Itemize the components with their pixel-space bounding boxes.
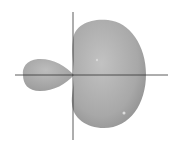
orbital-svg	[0, 0, 176, 148]
orbital-diagram	[0, 0, 176, 148]
large-lobe	[72, 20, 146, 128]
highlight-dot	[96, 59, 98, 61]
highlight-dot	[123, 112, 126, 115]
